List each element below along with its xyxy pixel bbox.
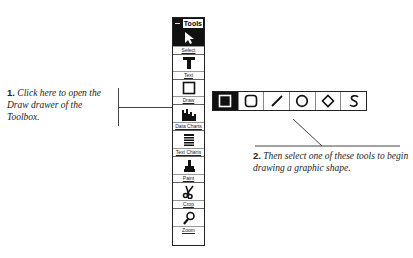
list-lines-icon — [182, 133, 196, 147]
tool-label-data-charts: Data Charts — [173, 122, 204, 130]
drawer-tool-freeform[interactable] — [341, 92, 366, 110]
tool-label-text-charts: Text Charts — [173, 148, 204, 156]
draw-drawer — [212, 91, 367, 111]
tool-paint[interactable] — [173, 156, 204, 174]
drawer-tool-ellipse[interactable] — [290, 92, 316, 110]
step-1-number: 1. — [7, 87, 15, 98]
drawer-tool-diamond[interactable] — [316, 92, 342, 110]
paint-brush-icon — [182, 159, 196, 173]
step-2-text: Then select one of these tools to begin … — [253, 151, 408, 173]
drawer-tool-line[interactable] — [264, 92, 290, 110]
tool-text-charts[interactable] — [173, 130, 204, 148]
freeform-s-icon — [347, 94, 361, 108]
square-outline-icon — [182, 81, 196, 95]
step-1-text: Click here to open the Draw drawer of th… — [7, 88, 101, 122]
tool-label-draw: Draw — [173, 96, 204, 104]
line-icon — [270, 94, 284, 108]
tool-text[interactable] — [173, 54, 204, 71]
text-t-icon — [182, 56, 196, 70]
callout-step-2: 2. Then select one of these tools to beg… — [253, 150, 413, 174]
tool-zoom[interactable] — [173, 208, 204, 226]
step-2-number: 2. — [253, 150, 261, 161]
scissors-icon — [182, 185, 196, 199]
callout-1-leader — [118, 107, 172, 108]
tool-crop[interactable] — [173, 182, 204, 200]
close-box-icon[interactable] — [175, 23, 180, 24]
tool-draw[interactable] — [173, 79, 204, 96]
rounded-rectangle-icon — [244, 94, 258, 108]
toolbox-titlebar[interactable]: Tools — [173, 18, 204, 30]
tool-label-select: Select — [173, 46, 204, 54]
callout-2-leader — [250, 112, 410, 152]
tool-label-text: Text — [173, 71, 204, 79]
bar-chart-icon — [181, 107, 197, 121]
toolbox-panel: Tools Select Text Draw Data Charts Text … — [172, 17, 205, 246]
tool-select[interactable] — [173, 30, 204, 46]
drawer-tool-rectangle[interactable] — [213, 92, 239, 110]
tool-label-zoom: Zoom — [173, 226, 204, 234]
tool-data-charts[interactable] — [173, 104, 204, 122]
ellipse-icon — [295, 94, 309, 108]
rectangle-icon — [218, 94, 232, 108]
toolbox-title: Tools — [183, 19, 203, 28]
callout-step-1: 1. Click here to open the Draw drawer of… — [7, 87, 117, 123]
diamond-icon — [321, 94, 335, 108]
magnifier-icon — [182, 211, 196, 225]
tool-label-crop: Crop — [173, 200, 204, 208]
arrow-pointer-icon — [183, 31, 195, 45]
tool-label-paint: Paint — [173, 174, 204, 182]
drawer-tool-rounded-rectangle[interactable] — [239, 92, 265, 110]
